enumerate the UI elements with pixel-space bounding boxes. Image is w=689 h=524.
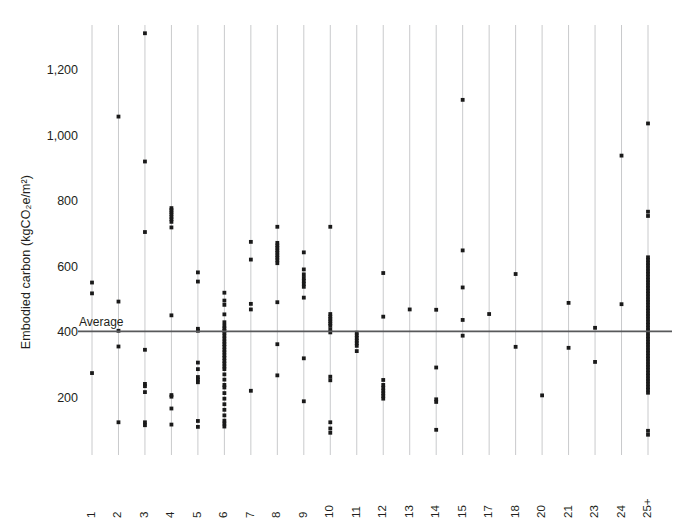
data-point <box>90 281 94 285</box>
x-tick-label: 9 <box>297 512 309 518</box>
data-point <box>117 345 121 349</box>
x-tick-label: 14 <box>429 505 441 518</box>
data-point <box>461 249 465 253</box>
x-tick-label: 8 <box>270 512 282 518</box>
data-point <box>222 378 226 382</box>
data-point <box>646 122 650 126</box>
data-point <box>620 302 624 306</box>
x-tick-label: 6 <box>217 512 229 518</box>
data-point <box>275 225 279 229</box>
data-point <box>222 413 226 417</box>
data-point <box>249 258 253 262</box>
data-point <box>275 261 279 265</box>
data-point <box>461 318 465 322</box>
data-point <box>514 272 518 276</box>
data-point <box>222 408 226 412</box>
data-point <box>461 98 465 102</box>
data-point <box>593 326 597 330</box>
data-point <box>381 397 385 401</box>
data-point <box>328 420 332 424</box>
data-point <box>117 420 121 424</box>
data-point <box>143 230 147 234</box>
data-point <box>117 300 121 304</box>
data-point <box>381 378 385 382</box>
data-point <box>302 296 306 300</box>
x-tick-label: 17 <box>482 505 494 518</box>
series-points <box>540 393 544 397</box>
data-point <box>646 214 650 218</box>
data-point <box>170 226 174 230</box>
data-point <box>302 356 306 360</box>
data-point <box>434 308 438 312</box>
data-point <box>222 367 226 371</box>
data-point <box>434 428 438 432</box>
data-point <box>381 271 385 275</box>
x-tick-label: 13 <box>403 505 415 518</box>
data-point <box>302 250 306 254</box>
data-point <box>328 324 332 328</box>
data-point <box>222 291 226 295</box>
data-point <box>355 344 359 348</box>
data-point <box>196 380 200 384</box>
data-point <box>646 433 650 437</box>
data-point <box>302 268 306 272</box>
data-point <box>170 395 174 399</box>
data-point <box>620 154 624 158</box>
data-point <box>117 115 121 119</box>
x-tick-label: 12 <box>376 505 388 518</box>
series-points <box>487 312 491 316</box>
data-point <box>275 373 279 377</box>
data-point <box>196 367 200 371</box>
x-tick-label: 1 <box>85 512 97 518</box>
data-point <box>567 301 571 305</box>
data-point <box>593 360 597 364</box>
data-point <box>222 312 226 316</box>
data-point <box>196 270 200 274</box>
data-point <box>355 349 359 353</box>
data-point <box>143 31 147 35</box>
x-tick-label: 10 <box>323 505 335 518</box>
data-point <box>170 423 174 427</box>
data-point <box>170 313 174 317</box>
x-tick-label: 5 <box>191 512 203 518</box>
data-point <box>143 160 147 164</box>
data-point <box>461 286 465 290</box>
data-point <box>567 346 571 350</box>
data-point <box>222 320 226 324</box>
data-point <box>328 378 332 382</box>
data-point <box>408 308 412 312</box>
data-point <box>487 312 491 316</box>
data-point <box>143 348 147 352</box>
data-point <box>196 419 200 423</box>
data-point <box>275 300 279 304</box>
data-point <box>434 366 438 370</box>
data-point <box>196 280 200 284</box>
x-tick-label: 3 <box>138 512 150 518</box>
data-point <box>222 303 226 307</box>
data-point <box>275 342 279 346</box>
data-point <box>143 384 147 388</box>
data-point <box>434 400 438 404</box>
data-point <box>222 391 226 395</box>
x-tick-label: 24 <box>615 505 627 518</box>
data-point <box>249 308 253 312</box>
data-point <box>143 390 147 394</box>
data-point <box>381 315 385 319</box>
data-point <box>222 425 226 429</box>
data-point <box>222 299 226 303</box>
data-point <box>328 427 332 431</box>
data-point <box>222 372 226 376</box>
data-point <box>249 389 253 393</box>
series-points <box>355 331 359 353</box>
average-line-label: Average <box>79 315 123 329</box>
series-points <box>408 308 412 312</box>
data-point <box>222 397 226 401</box>
data-point <box>143 423 147 427</box>
data-point <box>328 225 332 229</box>
data-point <box>328 375 332 379</box>
data-point <box>222 402 226 406</box>
x-tick-label: 21 <box>562 505 574 518</box>
data-point <box>249 240 253 244</box>
data-point <box>170 407 174 411</box>
data-point <box>90 371 94 375</box>
